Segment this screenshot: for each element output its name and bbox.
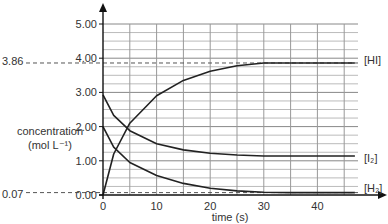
concentration-time-chart: 0.001.002.003.004.005.00010203040 concen… (0, 0, 388, 224)
y-axis-label: concentration (17, 125, 83, 137)
legend-h2: [H₂] (364, 182, 382, 194)
grid (103, 24, 358, 195)
svg-text:30: 30 (258, 200, 270, 212)
ref-label-high: 3.86 (2, 55, 23, 67)
ref-label-low: 0.07 (2, 188, 23, 200)
svg-text:0.00: 0.00 (76, 189, 97, 201)
x-axis-label: time (s) (212, 211, 249, 223)
legend-hi: [HI] (364, 54, 381, 66)
y-axis-unit-label: (mol L⁻¹) (28, 139, 72, 151)
svg-text:10: 10 (150, 200, 162, 212)
svg-text:1.00: 1.00 (76, 155, 97, 167)
legend-i2: [I₂] (364, 152, 377, 164)
svg-text:4.00: 4.00 (76, 52, 97, 64)
svg-text:40: 40 (311, 200, 323, 212)
svg-text:3.00: 3.00 (76, 86, 97, 98)
svg-text:5.00: 5.00 (76, 18, 97, 30)
svg-text:0: 0 (100, 200, 106, 212)
